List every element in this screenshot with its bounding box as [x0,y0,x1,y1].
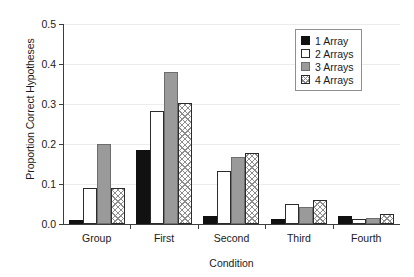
legend-item: 3 Arrays [301,60,354,73]
legend-label: 4 Arrays [315,74,354,86]
y-axis-title: Proportion Correct Hypotheses [24,0,36,219]
bar-group [198,24,265,224]
legend: 1 Array2 Arrays3 Arrays4 Arrays [295,29,362,91]
legend-label: 3 Arrays [315,61,354,73]
bar [136,150,150,224]
bar [231,157,245,224]
bar [313,200,327,224]
legend-item: 1 Array [301,34,354,47]
bar-chart: Proportion Correct Hypotheses 0.00.10.20… [0,0,414,277]
y-tick-label: 0.5 [41,18,56,30]
legend-item: 2 Arrays [301,47,354,60]
bar [97,144,111,224]
bar-group [63,24,130,224]
y-tick-label: 0.1 [41,178,56,190]
bars-row [198,24,265,224]
bar [380,214,394,224]
legend-swatch-icon [301,36,310,45]
x-tick-mark [130,224,131,229]
legend-swatch-icon [301,75,310,84]
bar [164,72,178,224]
x-tick-mark [265,224,266,229]
bar [178,103,192,224]
y-tick-label: 0.0 [41,218,56,230]
legend-swatch-icon [301,49,310,58]
x-tick-label: Fourth [333,232,400,244]
bar-group [130,24,197,224]
bar [69,220,83,224]
bar [352,219,366,224]
x-tick-label: Second [198,232,265,244]
bar [338,216,352,224]
legend-item: 4 Arrays [301,73,354,86]
x-tick-mark [333,224,334,229]
legend-swatch-icon [301,62,310,71]
bar [150,111,164,224]
legend-label: 2 Arrays [315,48,354,60]
x-axis-line [63,224,400,225]
x-axis-title: Condition [63,257,400,269]
bar [111,188,125,224]
bar [203,216,217,224]
bar [217,171,231,224]
bars-row [63,24,130,224]
bar [366,218,380,224]
legend-label: 1 Array [315,35,348,47]
y-tick-label: 0.4 [41,58,56,70]
y-tick-label: 0.2 [41,138,56,150]
bar [245,153,259,224]
bars-row [130,24,197,224]
x-tick-label: Group [63,232,130,244]
y-tick-label: 0.3 [41,98,56,110]
bar [299,207,313,224]
bar [271,219,285,224]
x-tick-label: First [130,232,197,244]
x-tick-label: Third [265,232,332,244]
bar [83,188,97,224]
x-tick-mark [198,224,199,229]
bar [285,204,299,224]
